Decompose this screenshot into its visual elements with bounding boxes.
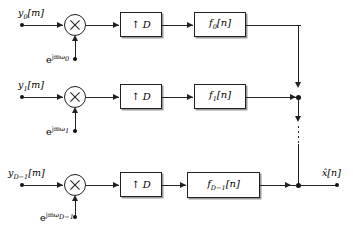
summing-bus-arrowhead-lower xyxy=(295,116,301,122)
branch-last-bus-arrowhead xyxy=(285,182,291,188)
branch-last-input-label: yD−1[m] xyxy=(8,168,45,180)
output-wire xyxy=(298,185,337,186)
branch-0-filter-arrowhead xyxy=(187,22,193,28)
branch-0-modulator-terminal xyxy=(73,57,77,61)
branch-0-input-arrowhead xyxy=(57,22,63,28)
branch-last-modulator-arrowhead xyxy=(72,195,78,201)
branch-1-input-arrowhead xyxy=(57,94,63,100)
output-terminal xyxy=(335,183,339,187)
branch-1-multiplier xyxy=(64,86,86,108)
branch-1-modulator-terminal xyxy=(73,129,77,133)
branch-0-modulator-label: ejmω0 xyxy=(46,54,69,65)
branch-1-wire-filter-to-bus xyxy=(246,97,296,98)
branch-0-filter-block: f0[n] xyxy=(194,12,246,37)
branch-last-upsampler-arrowhead xyxy=(113,182,119,188)
branch-1-modulator-arrowhead xyxy=(72,107,78,113)
summing-bus-segment-bottom xyxy=(298,144,299,186)
branch-1-filter-block: f1[n] xyxy=(194,84,246,109)
block-diagram-canvas: y0[m] ejmω0 ↑ D f0[n] y1[m] ejmω1 ↑ D f1… xyxy=(0,0,353,231)
branch-last-filter-arrowhead xyxy=(180,182,186,188)
branch-0-wire-filter-to-bus xyxy=(246,25,301,26)
branch-1-upsampler-arrowhead xyxy=(113,94,119,100)
summing-bus-segment-top xyxy=(298,25,299,85)
output-label: x̂[n] xyxy=(322,168,341,178)
branch-0-input-label: y0[m] xyxy=(18,8,44,20)
branch-last-upsampler-block: ↑ D xyxy=(120,172,162,197)
branch-0-modulator-arrowhead xyxy=(72,35,78,41)
branch-last-input-arrowhead xyxy=(57,182,63,188)
branch-last-multiplier xyxy=(64,174,86,196)
branch-0-upsampler-block: ↑ D xyxy=(120,12,162,37)
branch-0-upsampler-arrowhead xyxy=(113,22,119,28)
branch-last-modulator-label: ejmωD−1 xyxy=(40,212,74,223)
summing-bus-arrowhead-upper xyxy=(295,82,301,88)
branch-0-multiplier xyxy=(64,14,86,36)
summing-bus-ellipsis xyxy=(298,126,299,144)
branch-1-input-label: y1[m] xyxy=(18,80,44,92)
branch-last-filter-block: fD−1[n] xyxy=(187,172,260,198)
branch-1-filter-arrowhead xyxy=(187,94,193,100)
branch-1-upsampler-block: ↑ D xyxy=(120,84,162,109)
branch-1-modulator-label: ejmω1 xyxy=(46,126,69,137)
